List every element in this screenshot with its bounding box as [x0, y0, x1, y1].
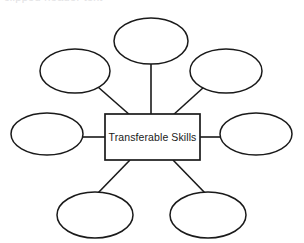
branch-node-right[interactable] — [220, 113, 292, 155]
branch-node-top-right[interactable] — [190, 49, 262, 93]
connector-center-to-top-left — [98, 87, 131, 116]
connector-center-to-bottom-right — [173, 160, 206, 194]
diagram-canvas: clipped header text Transferable Skills — [0, 0, 304, 243]
branch-node-top[interactable] — [114, 18, 188, 64]
connector-center-to-bottom-left — [97, 160, 130, 194]
mind-map-graphic — [0, 0, 304, 243]
branch-node-bottom-left[interactable] — [57, 192, 133, 238]
branch-node-left[interactable] — [11, 113, 83, 155]
connector-center-to-top-right — [172, 87, 204, 116]
branch-node-bottom-right[interactable] — [170, 192, 246, 238]
branch-node-top-left[interactable] — [40, 49, 110, 93]
center-topic-box[interactable] — [105, 114, 200, 160]
